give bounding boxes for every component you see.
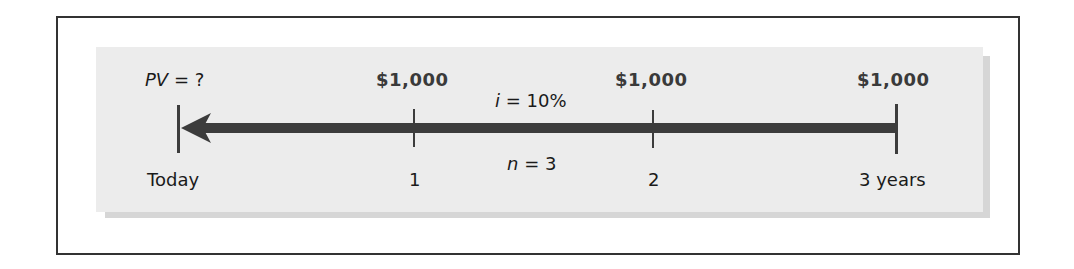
- point-label-1: 1: [409, 170, 420, 190]
- pv-rest: = ?: [168, 69, 204, 90]
- point-label-3: 3 years: [859, 170, 926, 190]
- tick-1: [413, 109, 415, 147]
- rate-label: i = 10%: [495, 91, 567, 111]
- rate-rest: = 10%: [500, 90, 567, 111]
- cashflow-3: $1,000: [857, 70, 929, 90]
- periods-label: n = 3: [507, 154, 556, 174]
- timeline-graphic: [0, 0, 1074, 269]
- pv-variable: PV: [145, 69, 168, 90]
- tick-today: [177, 105, 180, 153]
- tick-3: [895, 104, 898, 154]
- point-label-today: Today: [147, 170, 199, 190]
- point-label-2: 2: [648, 170, 659, 190]
- pv-label: PV = ?: [145, 70, 204, 90]
- cashflow-2: $1,000: [615, 70, 687, 90]
- periods-rest: = 3: [518, 153, 556, 174]
- tick-2: [652, 110, 654, 148]
- timeline-arrow-shaft: [200, 123, 897, 133]
- periods-variable: n: [507, 153, 518, 174]
- cashflow-1: $1,000: [376, 70, 448, 90]
